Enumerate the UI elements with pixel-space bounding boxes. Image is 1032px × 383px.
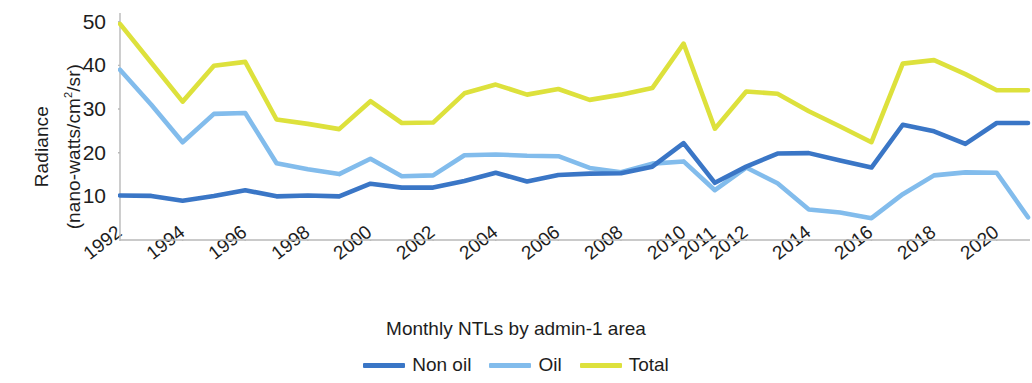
plot-svg <box>118 8 1032 241</box>
y-axis-tick-label: 50 <box>60 11 106 32</box>
chart-caption: Monthly NTLs by admin-1 area <box>0 318 1032 340</box>
line-chart: Radiance (nano-watts/cm2/sr) 1020304050 … <box>0 0 1032 383</box>
y-axis-tick-label: 10 <box>60 185 106 206</box>
plot-area <box>118 8 1032 241</box>
legend-swatch-icon <box>580 363 622 368</box>
legend-swatch-icon <box>489 363 531 368</box>
series-line-total <box>120 24 1028 142</box>
legend-item[interactable]: Non oil <box>363 354 471 376</box>
y-axis-tick-label: 30 <box>60 98 106 119</box>
legend-label: Oil <box>538 354 561 376</box>
y-axis-tick-label: 40 <box>60 54 106 75</box>
legend-label: Non oil <box>412 354 471 376</box>
y-axis-title-line1: Radiance <box>29 27 55 267</box>
legend-item[interactable]: Oil <box>489 354 561 376</box>
chart-legend: Non oilOilTotal <box>0 354 1032 376</box>
y-axis-tick-label: 20 <box>60 142 106 163</box>
axis-lines <box>120 13 1030 240</box>
legend-label: Total <box>629 354 669 376</box>
legend-swatch-icon <box>363 363 405 368</box>
legend-item[interactable]: Total <box>580 354 669 376</box>
